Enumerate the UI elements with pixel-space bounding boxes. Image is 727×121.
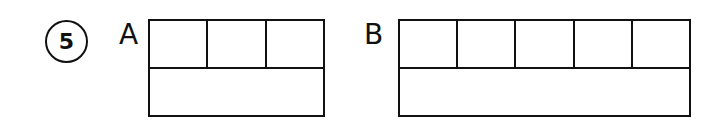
figure-a-top-row [150,21,323,69]
figure-b-label: B [364,21,383,49]
figure-a-cell-2 [208,21,266,67]
figure-b-cell-2 [458,21,516,67]
problem-number-badge: 5 [45,20,88,63]
figure-b-cell-5 [633,21,689,67]
figure-b-cell-4 [575,21,633,67]
figure-a-cell-3 [267,21,323,67]
figure-b-bottom-row [400,69,689,115]
figure-a-label: A [119,21,138,49]
figure-b-bar-model [398,19,691,117]
figure-b-cell-1 [400,21,458,67]
figure-a-cell-1 [150,21,208,67]
figure-a-bottom-row [150,69,323,115]
figure-a-bar-model [148,19,325,117]
figure-b-cell-3 [516,21,574,67]
figure-b-top-row [400,21,689,69]
problem-number: 5 [59,29,74,54]
